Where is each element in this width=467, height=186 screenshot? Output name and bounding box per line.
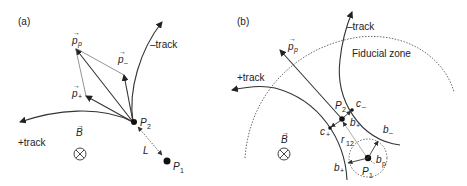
svg-text:→: → xyxy=(282,129,289,136)
label-l: L xyxy=(143,145,149,156)
minus-track-curve xyxy=(132,22,162,122)
svg-text:p: p xyxy=(117,54,124,65)
label-b-p: b p xyxy=(376,154,386,168)
vector-p-plus xyxy=(86,96,133,122)
label-p-plus: p + → xyxy=(71,82,82,100)
svg-text:p: p xyxy=(77,40,82,48)
panel-b-label: (b) xyxy=(237,16,249,27)
label-p-p: p p → xyxy=(71,29,82,48)
svg-text:+: + xyxy=(326,131,330,138)
point-p2 xyxy=(339,116,345,122)
label-p2: P 2 xyxy=(335,100,346,113)
svg-text:2: 2 xyxy=(147,123,151,130)
svg-text:P: P xyxy=(362,166,369,177)
svg-text:–: – xyxy=(124,59,128,66)
minus-track-label: –track xyxy=(150,39,178,50)
c-plus-vector xyxy=(331,121,340,127)
label-p1: P 1 xyxy=(173,161,184,174)
svg-text:p: p xyxy=(293,46,298,54)
point-p2 xyxy=(131,119,137,125)
svg-text:→: → xyxy=(119,48,126,55)
label-p-p: p p → xyxy=(287,35,298,54)
label-p-minus: p – → xyxy=(117,48,128,66)
svg-text:+: + xyxy=(356,122,360,129)
svg-text:+: + xyxy=(78,93,82,100)
svg-text:+: + xyxy=(340,167,344,174)
svg-text:1: 1 xyxy=(180,167,184,174)
svg-text:P: P xyxy=(140,117,147,128)
panel-a-label: (a) xyxy=(18,16,30,27)
b-p-line xyxy=(371,161,375,164)
magnetic-field-icon: B → xyxy=(74,122,86,160)
plus-track-label: +track xyxy=(18,137,47,148)
diagram-canvas: (a) –track +track p p → p – → p + → xyxy=(0,0,467,186)
svg-text:→: → xyxy=(77,122,84,129)
panel-b: (b) Fiducial zone –track +track p p → P … xyxy=(232,12,454,180)
svg-text:–: – xyxy=(389,129,393,136)
svg-text:P: P xyxy=(173,161,180,172)
svg-text:12: 12 xyxy=(346,140,354,147)
svg-text:→: → xyxy=(73,82,80,89)
vector-p-p xyxy=(280,50,342,119)
label-c-minus: c – xyxy=(356,98,366,110)
svg-text:p: p xyxy=(71,88,78,99)
svg-text:→: → xyxy=(289,35,296,42)
point-p1 xyxy=(164,158,171,165)
svg-text:p: p xyxy=(71,35,78,46)
plus-track-label: +track xyxy=(237,72,266,83)
svg-text:p: p xyxy=(287,41,294,52)
svg-text:r: r xyxy=(341,134,345,145)
svg-text:2: 2 xyxy=(342,106,346,113)
label-b-plus-inner: b + xyxy=(350,117,360,129)
label-b-minus: b – xyxy=(383,124,393,136)
svg-text:→: → xyxy=(73,29,80,36)
parallelogram-top xyxy=(77,49,124,75)
svg-text:c: c xyxy=(320,126,325,137)
distance-line xyxy=(138,127,162,155)
svg-text:p: p xyxy=(382,160,386,168)
svg-text:P: P xyxy=(335,100,342,111)
fiducial-zone-label: Fiducial zone xyxy=(352,48,411,59)
panel-a: (a) –track +track p p → p – → p + → xyxy=(18,16,184,174)
minus-track-label: –track xyxy=(347,21,375,32)
b-plus-vector xyxy=(348,158,368,163)
svg-text:c: c xyxy=(356,98,361,109)
svg-text:1: 1 xyxy=(369,172,373,179)
label-p2: P 2 xyxy=(140,117,151,130)
magnetic-field-icon: B → xyxy=(278,129,290,160)
label-b-plus: b + xyxy=(334,162,344,174)
svg-text:–: – xyxy=(362,103,366,110)
